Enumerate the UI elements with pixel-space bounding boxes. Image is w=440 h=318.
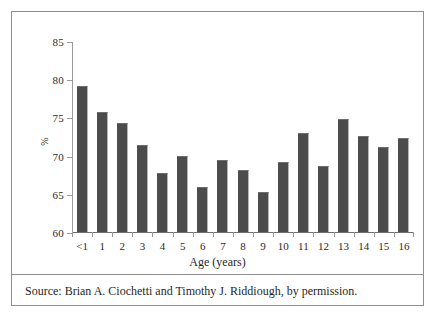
- x-axis-tick-label: 1: [99, 240, 105, 252]
- x-axis-tick: [253, 232, 254, 237]
- y-axis-tick-label: 70: [53, 151, 64, 163]
- x-axis-tick: [233, 232, 234, 237]
- x-axis-tick: [273, 232, 274, 237]
- x-axis-tick-label: 2: [120, 240, 126, 252]
- x-axis-tick-label: 10: [278, 240, 289, 252]
- bar: [117, 123, 128, 232]
- x-axis-tick: [112, 232, 113, 237]
- bar: [197, 187, 208, 232]
- x-axis-tick-label: 8: [240, 240, 246, 252]
- bar: [398, 138, 409, 232]
- x-axis-tick-label: 14: [358, 240, 369, 252]
- bar: [278, 162, 289, 232]
- source-note: Source: Brian A. Ciochetti and Timothy J…: [25, 284, 413, 299]
- x-axis-tick: [173, 232, 174, 237]
- x-axis-tick-label: 16: [398, 240, 409, 252]
- bar-chart: % 606570758085 <112345678910111213141516…: [12, 12, 423, 274]
- x-axis-tick: [334, 232, 335, 237]
- x-axis-tick: [293, 232, 294, 237]
- x-axis-tick: [374, 232, 375, 237]
- bar: [217, 160, 228, 232]
- x-axis-tick-label: <1: [76, 240, 88, 252]
- y-axis-tick-label: 80: [53, 74, 64, 86]
- x-axis-tick: [213, 232, 214, 237]
- bar: [378, 147, 389, 232]
- source-divider: [12, 274, 423, 275]
- y-axis-tick: [67, 195, 73, 196]
- x-axis-tick: [193, 232, 194, 237]
- bar: [318, 166, 329, 232]
- x-axis-tick-label: 4: [160, 240, 166, 252]
- y-axis-title: %: [39, 137, 50, 145]
- x-axis-tick-label: 12: [318, 240, 329, 252]
- x-axis-tick: [394, 232, 395, 237]
- x-axis-tick: [132, 232, 133, 237]
- bar: [97, 112, 108, 232]
- x-axis-line: [72, 232, 414, 233]
- figure-frame: % 606570758085 <112345678910111213141516…: [11, 11, 424, 306]
- bar: [77, 86, 88, 232]
- y-axis-tick-label: 75: [53, 112, 64, 124]
- bar: [238, 170, 249, 232]
- bar: [358, 136, 369, 232]
- x-axis-tick: [313, 232, 314, 237]
- bar: [258, 192, 269, 232]
- y-axis-line: [72, 42, 73, 233]
- y-axis-tick: [67, 80, 73, 81]
- x-axis-tick: [72, 232, 73, 237]
- x-axis-tick-label: 7: [220, 240, 226, 252]
- bar: [157, 173, 168, 232]
- x-axis-tick: [92, 232, 93, 237]
- x-axis-tick-label: 3: [140, 240, 146, 252]
- x-axis-tick-label: 5: [180, 240, 186, 252]
- plot-area: 606570758085 <112345678910111213141516: [72, 42, 414, 233]
- y-axis-tick-label: 60: [53, 227, 64, 239]
- x-axis-tick-label: 13: [338, 240, 349, 252]
- x-axis-tick-label: 6: [200, 240, 206, 252]
- x-axis-tick: [354, 232, 355, 237]
- bar: [338, 119, 349, 232]
- bar: [298, 133, 309, 232]
- x-axis-tick-label: 9: [260, 240, 266, 252]
- bar: [137, 145, 148, 232]
- y-axis-tick-label: 85: [53, 36, 64, 48]
- x-axis-tick: [413, 232, 414, 237]
- y-axis-tick: [67, 157, 73, 158]
- x-axis-title: Age (years): [12, 255, 423, 270]
- y-axis-tick: [67, 42, 73, 43]
- x-axis-tick-label: 11: [298, 240, 309, 252]
- y-axis-tick-label: 65: [53, 189, 64, 201]
- x-axis-tick-label: 15: [378, 240, 389, 252]
- bar: [177, 156, 188, 232]
- x-axis-tick: [152, 232, 153, 237]
- y-axis-tick: [67, 118, 73, 119]
